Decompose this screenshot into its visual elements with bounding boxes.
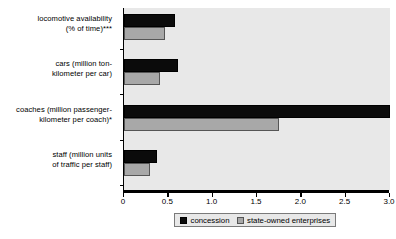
x-tick-mark	[256, 193, 257, 197]
category-label-line: (% of time)***	[0, 24, 112, 34]
plot-area	[123, 8, 390, 190]
category-label-staff: staff (million units of traffic per staf…	[0, 150, 112, 170]
category-label-line: coaches (million passenger-	[0, 105, 112, 115]
x-tick-label: 1.0	[206, 197, 217, 206]
legend-swatch-icon	[237, 217, 244, 224]
category-label-cars: cars (million ton- kilometer per car)	[0, 59, 112, 79]
category-label-line: of traffic per staff)	[0, 160, 112, 170]
bar-concession	[124, 105, 390, 118]
legend-entry-state-owned-enterprises: state-owned enterprises	[237, 216, 331, 225]
x-tick-mark	[345, 193, 346, 197]
legend-label: concession	[191, 216, 230, 225]
axis-stub-tick	[120, 94, 124, 95]
x-tick-mark	[212, 193, 213, 197]
bar-state-owned-enterprises	[124, 163, 150, 176]
bar-state-owned-enterprises	[124, 27, 165, 40]
x-tick-mark	[300, 193, 301, 197]
x-tick-mark	[389, 193, 390, 197]
legend-swatch-icon	[180, 217, 187, 224]
x-tick-label: 2.5	[339, 197, 350, 206]
category-label-line: cars (million ton-	[0, 59, 112, 69]
x-tick-mark	[123, 193, 124, 197]
bar-state-owned-enterprises	[124, 72, 160, 85]
bar-concession	[124, 14, 175, 27]
category-label-coaches: coaches (million passenger- kilometer pe…	[0, 105, 112, 125]
category-label-line: staff (million units	[0, 150, 112, 160]
bar-chart: locomotive availability (% of time)*** c…	[0, 0, 396, 239]
axis-stub-tick	[120, 185, 124, 186]
category-axis-labels: locomotive availability (% of time)*** c…	[0, 8, 118, 190]
legend: concession state-owned enterprises	[174, 213, 336, 227]
bar-concession	[124, 59, 178, 72]
category-label-line: kilometer per car)	[0, 69, 112, 79]
x-tick-label: 2.0	[295, 197, 306, 206]
axis-stub-tick	[120, 140, 124, 141]
plot-inner	[124, 8, 390, 190]
x-tick-label: 0.5	[162, 197, 173, 206]
x-tick-label: 0	[121, 197, 125, 206]
x-tick-label: 1.5	[250, 197, 261, 206]
bar-state-owned-enterprises	[124, 118, 279, 131]
bar-concession	[124, 150, 157, 163]
axis-stub-tick	[120, 49, 124, 50]
x-axis-ticks: 00.51.01.52.02.53.0	[0, 190, 396, 208]
x-tick-label: 3.0	[383, 197, 394, 206]
x-tick-mark	[167, 193, 168, 197]
legend-entry-concession: concession	[180, 216, 230, 225]
category-label-line: kilometer per coach)*	[0, 115, 112, 125]
legend-label: state-owned enterprises	[247, 216, 330, 225]
category-label-line: locomotive availability	[0, 14, 112, 24]
category-label-locomotive: locomotive availability (% of time)***	[0, 14, 112, 34]
